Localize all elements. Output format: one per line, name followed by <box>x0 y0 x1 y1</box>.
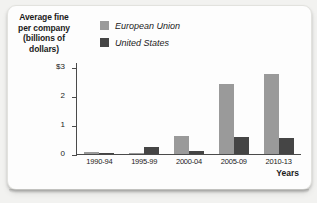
x-axis-tick-label: 1990-94 <box>77 157 122 166</box>
legend-item-united-states: United States <box>100 35 180 50</box>
bar-group <box>256 63 301 154</box>
x-axis-tick-label: 2010-13 <box>256 157 301 166</box>
bar-european-union <box>219 84 234 154</box>
bar-group <box>211 63 256 154</box>
bar-european-union <box>174 136 189 154</box>
chart-page: Average fine per company (billions of do… <box>0 0 317 203</box>
legend-swatch-icon-european-union <box>100 21 109 30</box>
bar-united-states <box>99 153 114 154</box>
y-axis-title-line-1: Average fine <box>10 12 78 23</box>
bar-united-states <box>279 138 294 154</box>
bar-european-union <box>129 153 144 154</box>
y-axis-tick-label: $3 <box>56 62 65 71</box>
legend-label-united-states: United States <box>115 38 169 48</box>
bar-groups <box>77 63 301 154</box>
y-axis-tick-label: 0 <box>61 149 65 158</box>
bar-european-union <box>84 152 99 154</box>
bar-group <box>77 63 122 154</box>
bar-group <box>122 63 167 154</box>
y-axis-title: Average fine per company (billions of do… <box>10 12 78 54</box>
x-axis-tick-label: 2005-09 <box>211 157 256 166</box>
bar-united-states <box>234 137 249 154</box>
x-axis-labels: 1990-941995-992000-042005-092010-13 <box>77 157 301 166</box>
legend-label-european-union: European Union <box>115 21 180 31</box>
bar-european-union <box>264 74 279 154</box>
y-axis-tick: 0 <box>72 155 77 156</box>
x-axis-title: Years <box>276 168 299 178</box>
legend-item-european-union: European Union <box>100 18 180 33</box>
y-axis-tick-label: 1 <box>61 120 65 129</box>
x-axis-tick-label: 1995-99 <box>122 157 167 166</box>
legend-swatch-icon-united-states <box>100 38 109 47</box>
bar-united-states <box>144 147 159 154</box>
x-axis-line <box>76 154 301 155</box>
bar-united-states <box>189 151 204 154</box>
x-axis-tick-label: 2000-04 <box>167 157 212 166</box>
chart-legend: European Union United States <box>100 18 180 52</box>
y-axis-tick-label: 2 <box>61 91 65 100</box>
plot-area: $3210 <box>76 63 301 155</box>
card-shadow <box>9 189 309 193</box>
y-axis-title-line-4: dollars) <box>10 44 78 55</box>
y-axis-title-line-3: (billions of <box>10 33 78 44</box>
y-axis-title-line-2: per company <box>10 23 78 34</box>
bar-group <box>167 63 212 154</box>
